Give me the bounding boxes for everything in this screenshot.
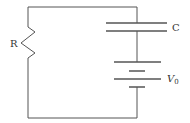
- capacitor-label: C: [172, 22, 180, 33]
- resistor-symbol: [21, 27, 35, 58]
- battery-label-subscript: 0: [174, 78, 178, 86]
- circuit-diagram: R C V0: [0, 0, 190, 123]
- battery-label: V0: [167, 73, 179, 86]
- resistor-label: R: [10, 38, 18, 49]
